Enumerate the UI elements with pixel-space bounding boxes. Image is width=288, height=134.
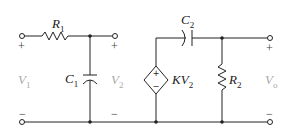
circuit-schematic: + − bbox=[0, 0, 288, 134]
label-v2: V2 bbox=[111, 73, 123, 90]
v2-minus-sign: − bbox=[111, 108, 118, 120]
svg-text:+: + bbox=[153, 69, 160, 78]
label-c1: C1 bbox=[65, 72, 78, 89]
vo-plus-sign: + bbox=[266, 42, 273, 54]
v2-terminal-top bbox=[113, 34, 118, 39]
resistor-r2 bbox=[218, 64, 226, 90]
label-r1: R1 bbox=[52, 17, 64, 34]
svg-text:−: − bbox=[153, 82, 160, 91]
v2-plus-sign: + bbox=[111, 40, 118, 52]
vo-minus-sign: − bbox=[266, 108, 273, 120]
v1-plus-sign: + bbox=[18, 40, 25, 52]
label-c2: C2 bbox=[181, 13, 194, 30]
output-terminal-top bbox=[268, 36, 273, 41]
label-v1: V1 bbox=[18, 73, 30, 90]
label-r2: R2 bbox=[229, 73, 241, 90]
label-vo: Vo bbox=[265, 73, 277, 90]
v1-minus-sign: − bbox=[19, 108, 26, 120]
input-terminal-top bbox=[20, 34, 25, 39]
label-kv2: KV2 bbox=[172, 73, 193, 90]
